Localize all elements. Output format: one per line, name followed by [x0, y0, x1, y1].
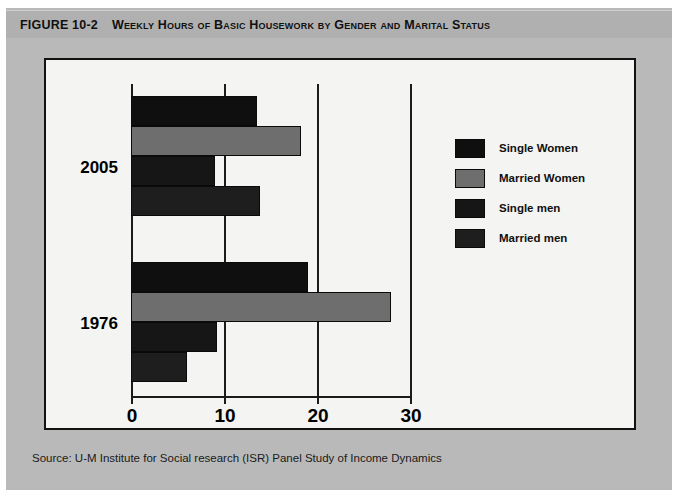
- legend-swatch-married-men: [455, 229, 485, 248]
- group-label-2005: 2005: [48, 158, 118, 178]
- gridline-30: [410, 84, 412, 396]
- figure-title-text: Weekly Hours of Basic Housework by Gende…: [112, 18, 490, 32]
- legend-label-married-men: Married men: [499, 232, 567, 244]
- x-tick-label-30: 30: [400, 405, 421, 427]
- x-tick-label-10: 10: [214, 405, 235, 427]
- x-tick-label-0: 0: [127, 405, 138, 427]
- legend-label-married-women: Married Women: [499, 172, 585, 184]
- figure-title: Figure 10-2Weekly Hours of Basic Housewo…: [6, 18, 490, 32]
- figure-title-bar: Figure 10-2Weekly Hours of Basic Housewo…: [6, 10, 672, 39]
- gridline-20: [317, 84, 319, 396]
- bar-2005-married-men: [131, 186, 260, 216]
- group-label-1976: 1976: [48, 314, 118, 334]
- tick-mark-20: [317, 396, 319, 404]
- legend-swatch-single-men: [455, 199, 485, 218]
- tick-mark-0: [131, 396, 133, 404]
- bar-1976-single-women: [131, 262, 308, 292]
- legend-item-single-men: Single men: [455, 193, 585, 223]
- x-axis-line: [131, 396, 412, 398]
- legend-swatch-married-women: [455, 169, 485, 188]
- source-note: Source: U-M Institute for Social researc…: [32, 452, 442, 464]
- bar-1976-married-women: [131, 292, 391, 322]
- bar-2005-single-men: [131, 156, 215, 186]
- figure-root: Figure 10-2Weekly Hours of Basic Housewo…: [0, 0, 678, 498]
- tick-mark-30: [410, 396, 412, 404]
- source-bar: [6, 442, 672, 490]
- tick-mark-10: [224, 396, 226, 404]
- legend-swatch-single-women: [455, 139, 485, 158]
- legend-label-single-women: Single Women: [499, 142, 578, 154]
- legend-item-single-women: Single Women: [455, 133, 585, 163]
- legend-item-married-men: Married men: [455, 223, 585, 253]
- x-tick-label-20: 20: [307, 405, 328, 427]
- figure-number: Figure 10-2: [20, 18, 98, 32]
- bar-1976-single-men: [131, 322, 217, 352]
- bar-2005-married-women: [131, 126, 301, 156]
- legend-label-single-men: Single men: [499, 202, 560, 214]
- chart-legend: Single Women Married Women Single men Ma…: [455, 133, 585, 253]
- legend-item-married-women: Married Women: [455, 163, 585, 193]
- bar-1976-married-men: [131, 352, 187, 382]
- bar-2005-single-women: [131, 96, 257, 126]
